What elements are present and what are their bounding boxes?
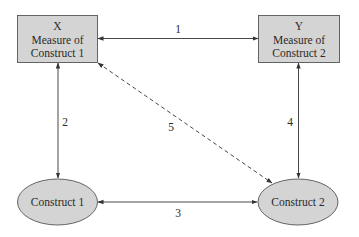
edge-2-label: 2 bbox=[62, 116, 68, 128]
node-y-letter: Y bbox=[295, 20, 304, 32]
edge-4: 4 bbox=[287, 63, 298, 178]
edge-2: 2 bbox=[58, 63, 68, 178]
edge-3-label: 3 bbox=[175, 207, 181, 219]
edge-5-label: 5 bbox=[168, 121, 174, 133]
edge-5: 5 bbox=[98, 63, 272, 183]
node-x-measure: X Measure of Construct 1 bbox=[18, 16, 98, 63]
node-construct-1: Construct 1 bbox=[18, 179, 98, 225]
edge-1: 1 bbox=[98, 23, 258, 39]
construct-1-label: Construct 1 bbox=[31, 196, 85, 208]
node-x-line3: Construct 1 bbox=[31, 47, 85, 59]
node-y-measure: Y Measure of Construct 2 bbox=[259, 16, 340, 63]
node-x-line2: Measure of bbox=[31, 34, 83, 46]
node-construct-2: Construct 2 bbox=[258, 179, 338, 225]
node-y-line2: Measure of bbox=[273, 34, 325, 46]
construct-2-label: Construct 2 bbox=[271, 196, 325, 208]
node-y-line3: Construct 2 bbox=[272, 47, 326, 59]
edge-4-label: 4 bbox=[287, 116, 293, 128]
construct-validity-diagram: 1 2 3 4 5 X Measure of Construct 1 Y Mea… bbox=[0, 0, 359, 237]
node-x-letter: X bbox=[53, 20, 62, 32]
edge-3: 3 bbox=[98, 202, 257, 219]
edge-1-label: 1 bbox=[175, 23, 181, 35]
edge-5-dashed-line bbox=[98, 63, 272, 183]
